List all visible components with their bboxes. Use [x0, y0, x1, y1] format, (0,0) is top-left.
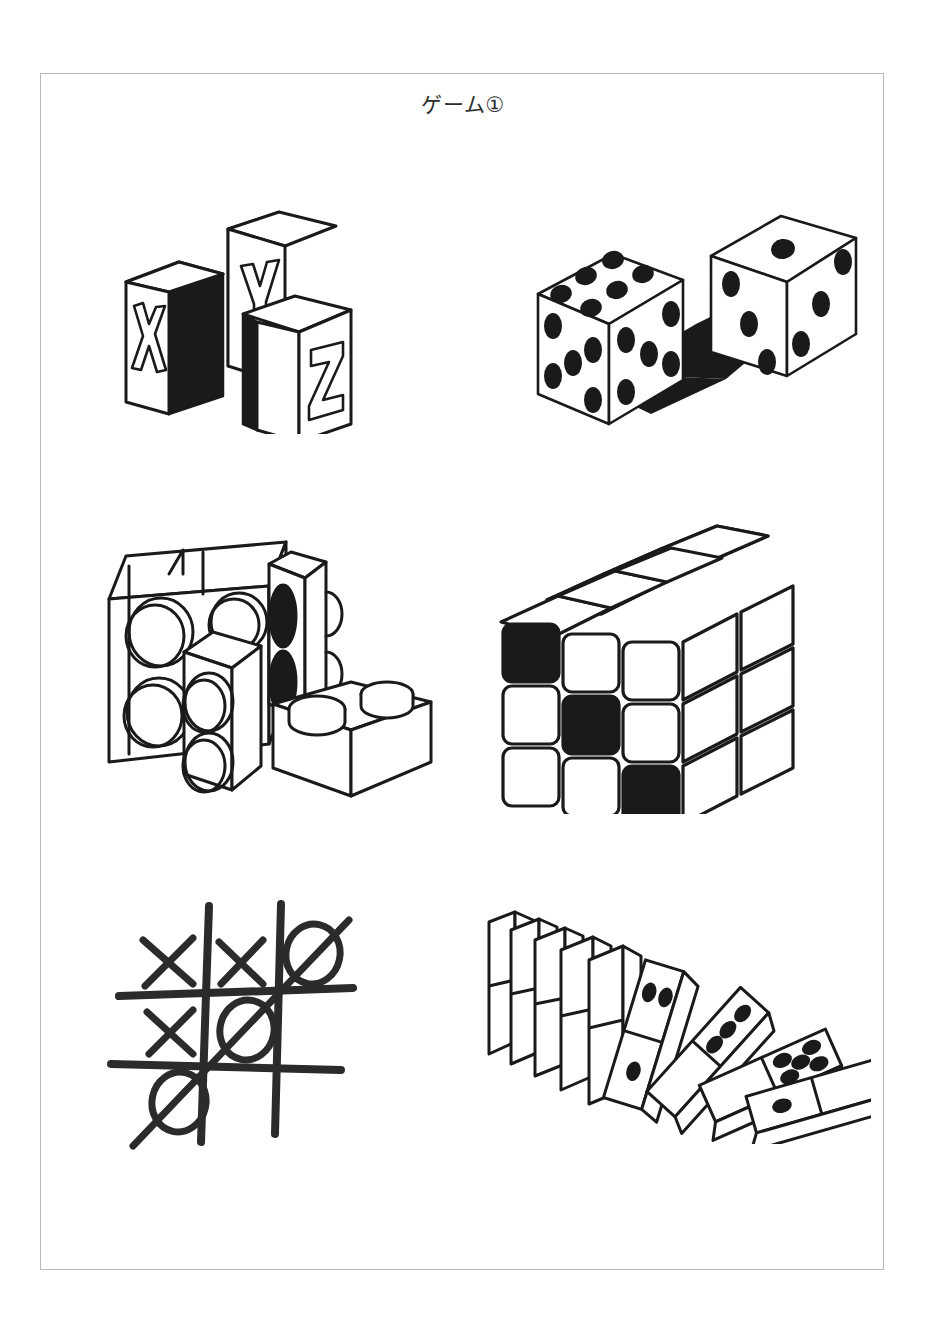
grid-line-horizontal-2 [111, 1064, 341, 1070]
alphabet-blocks-drawing [71, 174, 401, 434]
illustration-rubiks-cube [441, 524, 821, 814]
mark-x-r2c1 [147, 1010, 193, 1054]
illustration-dice-pair [481, 164, 881, 464]
dice-drawing [481, 164, 881, 464]
mark-x-r1c1 [143, 938, 193, 986]
grid-line-horizontal-1 [119, 988, 353, 996]
page-title: ゲーム① [41, 88, 885, 118]
illustration-tic-tac-toe [101, 884, 401, 1164]
mark-x-r1c2 [219, 940, 263, 984]
illustration-alphabet-blocks [71, 174, 401, 434]
worksheet-sheet: ゲーム① [40, 73, 884, 1270]
illustration-building-blocks [51, 504, 451, 814]
dominoes-drawing [471, 894, 871, 1144]
illustration-dominoes-chain [471, 894, 871, 1144]
tic-tac-toe-drawing [101, 884, 401, 1164]
building-blocks-drawing [51, 504, 451, 814]
page-root: ゲーム① [0, 0, 926, 1332]
rubiks-cube-drawing [441, 524, 821, 814]
